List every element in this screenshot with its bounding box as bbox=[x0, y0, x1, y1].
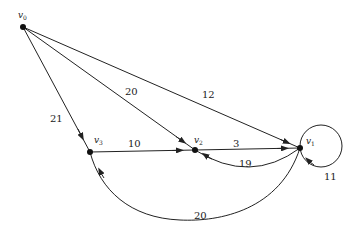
node-label-v3: v3 bbox=[94, 135, 103, 146]
node-v3[interactable] bbox=[87, 149, 93, 155]
weight-v2-v1: 3 bbox=[233, 138, 239, 149]
weight-v0-v2: 20 bbox=[125, 86, 138, 97]
edge-v3-v2 bbox=[90, 150, 195, 152]
edge-v0-v3 bbox=[23, 27, 90, 152]
weight-v0-v3: 21 bbox=[50, 113, 63, 124]
node-v0[interactable] bbox=[20, 24, 26, 30]
edge-v0-v2 bbox=[23, 27, 195, 150]
weight-v1-loop: 11 bbox=[324, 171, 337, 182]
node-v2[interactable] bbox=[192, 147, 198, 153]
weight-v1-v2: 19 bbox=[239, 158, 252, 169]
node-v1[interactable] bbox=[297, 145, 303, 151]
node-label-v1: v1 bbox=[306, 136, 315, 147]
weight-v0-v1: 12 bbox=[202, 89, 215, 100]
edge-v2-v1 bbox=[195, 148, 300, 150]
edge-v1-loop bbox=[300, 125, 342, 167]
weight-v3-v2: 10 bbox=[128, 138, 141, 149]
node-label-v0: v0 bbox=[18, 10, 27, 21]
edge-v0-v1 bbox=[23, 27, 300, 148]
graph-canvas: v0 v1 v2 v3 21 20 12 10 3 19 11 20 bbox=[0, 0, 362, 237]
weight-v1-v3: 20 bbox=[194, 210, 207, 221]
node-label-v2: v2 bbox=[194, 135, 203, 146]
